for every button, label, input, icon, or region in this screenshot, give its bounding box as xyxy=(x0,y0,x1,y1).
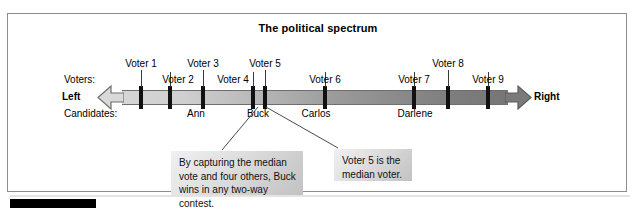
spectrum-diagram: Left Right Voters: Candidates: Voter 1Vo… xyxy=(0,0,636,208)
callout-median-voter: Voter 5 is the median voter. xyxy=(334,149,412,181)
caption-divider xyxy=(10,195,630,197)
callout-buck: By capturing the median vote and four ot… xyxy=(171,151,303,195)
callout-connector-lines xyxy=(0,0,636,208)
caption-bar xyxy=(10,199,96,208)
political-spectrum-figure: The political spectrum Left Right Voters… xyxy=(0,0,636,208)
